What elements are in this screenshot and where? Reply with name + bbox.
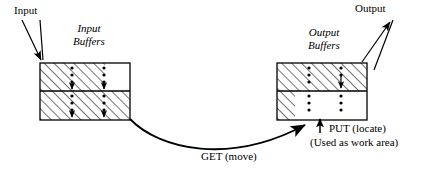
- input-arrow-connector: [22, 20, 43, 60]
- diagram-canvas: Input Output Input Buffers Output Buffer…: [0, 0, 432, 182]
- label-input-buffers-line2: Buffers: [53, 35, 125, 48]
- output-cell-0-0: [277, 63, 367, 91]
- label-input: Input: [14, 4, 37, 17]
- label-put: PUT (locate): [329, 122, 386, 135]
- label-work-area: (Used as work area): [310, 136, 398, 149]
- label-input-buffers-line1: Input: [53, 22, 125, 35]
- label-get: GET (move): [201, 150, 257, 163]
- label-output-buffers-line1: Output: [288, 26, 360, 39]
- output-buffers-box: [277, 63, 367, 120]
- input-cell-1-0: [40, 91, 130, 120]
- input-buffers-box: [40, 63, 130, 120]
- label-input-buffers: Input Buffers: [53, 22, 125, 47]
- output-cell-1-0: [277, 91, 295, 120]
- output-cell-1-1: [295, 91, 367, 120]
- label-output: Output: [355, 2, 386, 15]
- input-cell-0-1: [105, 63, 130, 91]
- label-output-buffers-line2: Buffers: [288, 39, 360, 52]
- label-output-buffers: Output Buffers: [288, 26, 360, 51]
- get-curve-arrow: [130, 119, 305, 149]
